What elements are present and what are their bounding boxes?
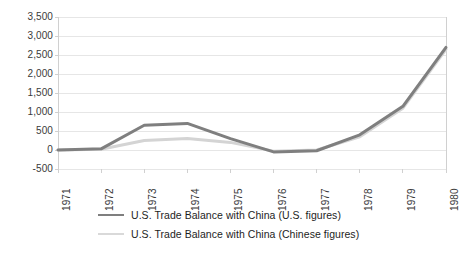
legend-swatch-chinese-figures	[98, 233, 124, 235]
chart-legend: U.S. Trade Balance with China (U.S. figu…	[0, 205, 463, 243]
x-axis-ticks	[58, 169, 446, 173]
legend-swatch-us-figures	[98, 214, 124, 216]
line-chart: 3,5003,0002,5002,0001,5001,0005000-500 1…	[0, 0, 463, 257]
legend-label-us-figures: U.S. Trade Balance with China (U.S. figu…	[131, 209, 341, 221]
y-axis-tick-label: 3,500	[27, 12, 53, 22]
y-axis-tick-label: -500	[33, 164, 53, 174]
legend-label-chinese-figures: U.S. Trade Balance with China (Chinese f…	[131, 228, 359, 240]
y-axis-tick-label: 2,000	[27, 69, 53, 79]
y-axis-tick-label: 2,500	[27, 50, 53, 60]
y-axis-tick-label: 1,500	[27, 88, 53, 98]
y-axis-tick-label: 3,000	[27, 31, 53, 41]
y-axis-tick-label: 0	[47, 145, 53, 155]
y-axis-tick-label: 500	[36, 126, 53, 136]
legend-item-chinese-figures: U.S. Trade Balance with China (Chinese f…	[0, 224, 463, 243]
legend-item-us-figures: U.S. Trade Balance with China (U.S. figu…	[0, 205, 463, 224]
y-axis-tick-label: 1,000	[27, 107, 53, 117]
